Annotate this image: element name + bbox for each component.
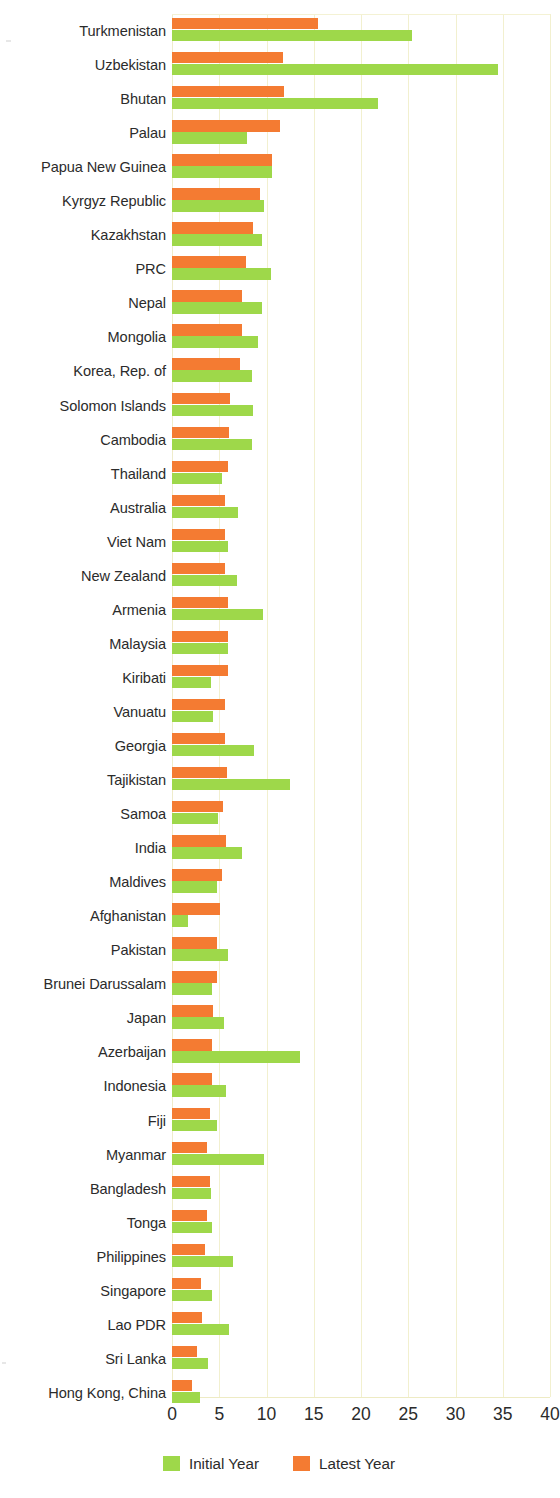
bar-latest-year [172, 529, 225, 540]
bar-latest-year [172, 1176, 210, 1187]
bar-group [172, 1308, 558, 1342]
bar-group [172, 831, 558, 865]
category-label: Vanuatu [113, 704, 166, 720]
bar-group [172, 82, 558, 116]
bar-initial-year [172, 64, 498, 75]
x-tick-label: 15 [304, 1404, 323, 1425]
bar-latest-year [172, 290, 242, 301]
bar-latest-year [172, 733, 225, 744]
bar-group [172, 695, 558, 729]
chart-row: Brunei Darussalam [0, 967, 558, 1001]
chart-row: PRC [0, 252, 558, 286]
bar-latest-year [172, 631, 228, 642]
chart-row: Sri Lanka [0, 1342, 558, 1376]
chart-row: Pakistan [0, 933, 558, 967]
category-label: Fiji [148, 1113, 166, 1129]
category-label: Samoa [120, 806, 166, 822]
bar-group [172, 967, 558, 1001]
bar-group [172, 286, 558, 320]
bar-group [172, 48, 558, 82]
bar-group [172, 150, 558, 184]
bar-group [172, 661, 558, 695]
bar-latest-year [172, 835, 226, 846]
bar-latest-year [172, 324, 242, 335]
category-label: Kazakhstan [91, 227, 166, 243]
category-label: Kiribati [122, 670, 166, 686]
bar-initial-year [172, 30, 412, 41]
bar-group [172, 457, 558, 491]
chart-row: Mongolia [0, 320, 558, 354]
bar-initial-year [172, 1358, 208, 1369]
bar-initial-year [172, 677, 211, 688]
bar-initial-year [172, 507, 238, 518]
x-tick-label: 40 [540, 1404, 559, 1425]
scan-speck [2, 1362, 6, 1364]
bar-initial-year [172, 1051, 300, 1062]
category-label: Palau [129, 125, 166, 141]
bar-initial-year [172, 541, 228, 552]
chart-row: Myanmar [0, 1138, 558, 1172]
bar-latest-year [172, 358, 240, 369]
chart-row: Malaysia [0, 627, 558, 661]
chart-row: Viet Nam [0, 525, 558, 559]
bar-initial-year [172, 881, 217, 892]
legend-item: Latest Year [293, 1455, 395, 1472]
bar-initial-year [172, 1085, 226, 1096]
chart-row: Lao PDR [0, 1308, 558, 1342]
bar-group [172, 423, 558, 457]
bar-initial-year [172, 1392, 200, 1403]
category-label: Azerbaijan [98, 1044, 166, 1060]
category-label: Japan [127, 1010, 166, 1026]
bar-initial-year [172, 1188, 211, 1199]
category-label: Armenia [112, 602, 166, 618]
bar-latest-year [172, 427, 229, 438]
category-label: Mongolia [108, 329, 166, 345]
bar-initial-year [172, 1290, 212, 1301]
chart-row: Afghanistan [0, 899, 558, 933]
bar-initial-year [172, 98, 378, 109]
bar-initial-year [172, 370, 252, 381]
bar-initial-year [172, 1222, 212, 1233]
legend-item: Initial Year [163, 1455, 259, 1472]
chart-row: Uzbekistan [0, 48, 558, 82]
bar-group [172, 320, 558, 354]
chart-row: New Zealand [0, 559, 558, 593]
bar-latest-year [172, 597, 228, 608]
bar-latest-year [172, 256, 246, 267]
bar-initial-year [172, 1017, 224, 1028]
bar-latest-year [172, 869, 222, 880]
chart-row: Samoa [0, 797, 558, 831]
chart-row: Indonesia [0, 1069, 558, 1103]
chart-row: India [0, 831, 558, 865]
category-label: Brunei Darussalam [44, 976, 166, 992]
bar-group [172, 797, 558, 831]
chart-row: Japan [0, 1001, 558, 1035]
category-label: Afghanistan [90, 908, 166, 924]
x-tick-label: 5 [214, 1404, 224, 1425]
bar-latest-year [172, 801, 223, 812]
chart-row: Palau [0, 116, 558, 150]
bar-latest-year [172, 1278, 201, 1289]
bar-initial-year [172, 1154, 264, 1165]
bar-group [172, 729, 558, 763]
bar-group [172, 252, 558, 286]
bar-initial-year [172, 405, 253, 416]
chart-row: Philippines [0, 1240, 558, 1274]
bar-initial-year [172, 200, 264, 211]
bar-initial-year [172, 268, 271, 279]
bar-latest-year [172, 495, 225, 506]
legend-label: Latest Year [319, 1455, 395, 1472]
bar-group [172, 559, 558, 593]
category-label: New Zealand [81, 568, 166, 584]
bar-latest-year [172, 1142, 207, 1153]
bar-latest-year [172, 1312, 202, 1323]
bar-group [172, 593, 558, 627]
x-tick-label: 10 [257, 1404, 276, 1425]
bar-latest-year [172, 86, 284, 97]
bar-group [172, 763, 558, 797]
bar-group [172, 1069, 558, 1103]
bar-group [172, 899, 558, 933]
legend-swatch-initial-year [163, 1456, 180, 1471]
category-label: Turkmenistan [79, 23, 166, 39]
category-label: Papua New Guinea [41, 159, 166, 175]
